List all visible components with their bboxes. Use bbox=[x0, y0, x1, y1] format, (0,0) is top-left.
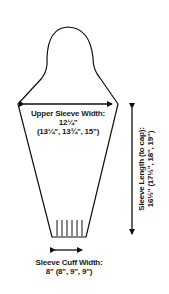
upper-sleeve-width-label: Upper Sleeve Width: 12¼" (13¼", 13¾", 15… bbox=[18, 109, 118, 136]
sleeve-length-value: 16½" (17½", 18", 19") bbox=[146, 99, 155, 239]
cuff-width-value: 8" (8", 9", 9") bbox=[28, 267, 110, 276]
upper-width-sizes: (13¼", 13¾", 15") bbox=[18, 127, 118, 136]
cuff-width-title: Sleeve Cuff Width: bbox=[28, 258, 110, 267]
sleeve-length-title: Sleeve Length (to cap): bbox=[137, 99, 146, 239]
sleeve-cuff-width-label: Sleeve Cuff Width: 8" (8", 9", 9") bbox=[28, 258, 110, 276]
cuff-ribbing bbox=[57, 220, 82, 236]
upper-width-title: Upper Sleeve Width: bbox=[18, 109, 118, 118]
upper-width-value: 12¼" bbox=[18, 118, 118, 127]
